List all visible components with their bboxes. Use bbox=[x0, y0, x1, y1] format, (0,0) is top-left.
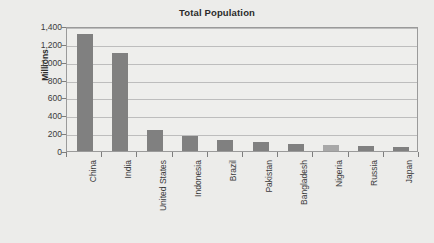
bar bbox=[147, 130, 163, 151]
x-axis-category-label: Bangladesh bbox=[299, 160, 309, 205]
x-axis-tick-mark bbox=[383, 152, 384, 157]
x-axis-category-label: Nigeria bbox=[334, 160, 344, 187]
bar bbox=[288, 144, 304, 151]
bar bbox=[217, 140, 233, 151]
chart-title: Total Population bbox=[0, 7, 434, 18]
gridline bbox=[67, 46, 417, 47]
x-axis-category-label: Pakistan bbox=[264, 160, 274, 193]
plot-area bbox=[66, 27, 418, 152]
y-axis-tick-label: 1,400 bbox=[18, 22, 62, 32]
y-axis-tick-label: 1,200 bbox=[18, 40, 62, 50]
bar bbox=[358, 146, 374, 151]
y-axis-tick-label: 200 bbox=[18, 129, 62, 139]
y-axis-tick-label: 800 bbox=[18, 76, 62, 86]
y-axis-tick-label: 600 bbox=[18, 93, 62, 103]
bar bbox=[77, 34, 93, 151]
bar bbox=[112, 53, 128, 151]
x-axis-category-label: Japan bbox=[404, 160, 414, 183]
x-axis-category-label: United States bbox=[158, 160, 168, 211]
x-axis-tick-mark bbox=[348, 152, 349, 157]
bar bbox=[323, 145, 339, 151]
x-axis-category-label: Indonesia bbox=[193, 160, 203, 197]
bar bbox=[253, 142, 269, 151]
x-axis-tick-mark bbox=[418, 152, 419, 157]
y-axis-tick-label: 1,000 bbox=[18, 58, 62, 68]
x-axis-tick-mark bbox=[312, 152, 313, 157]
bar bbox=[182, 136, 198, 151]
y-axis-tick-label: 0 bbox=[18, 147, 62, 157]
x-axis-tick-mark bbox=[207, 152, 208, 157]
x-axis-tick-mark bbox=[66, 152, 67, 157]
x-axis-tick-mark bbox=[277, 152, 278, 157]
x-axis-tick-mark bbox=[242, 152, 243, 157]
x-axis-category-label: China bbox=[88, 160, 98, 182]
x-axis-category-label: India bbox=[123, 160, 133, 178]
gridline bbox=[67, 28, 417, 29]
x-axis-tick-mark bbox=[101, 152, 102, 157]
y-axis-tick-label: 400 bbox=[18, 111, 62, 121]
x-axis-category-label: Brazil bbox=[228, 160, 238, 181]
x-axis-tick-mark bbox=[172, 152, 173, 157]
bar bbox=[393, 147, 409, 151]
bar-chart: Total Population Millions 02004006008001… bbox=[0, 0, 434, 243]
x-axis-tick-mark bbox=[136, 152, 137, 157]
x-axis-category-label: Russia bbox=[369, 160, 379, 186]
